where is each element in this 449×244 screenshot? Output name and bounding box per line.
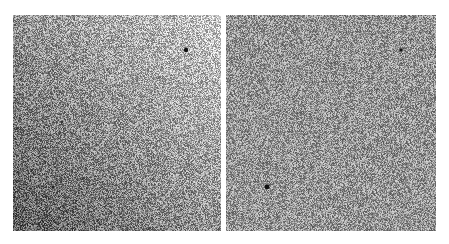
right-noise-canvas [226,15,436,231]
right-noise-image-panel [226,15,436,231]
left-noise-canvas [13,15,221,231]
left-noise-image-panel [13,15,221,231]
